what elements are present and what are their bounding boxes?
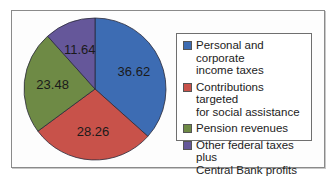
data-label: 28.26 — [77, 124, 110, 139]
data-label: 23.48 — [36, 77, 69, 92]
legend-label: Personal and corporate income taxes — [196, 39, 307, 77]
legend-item-income-taxes: Personal and corporate income taxes — [183, 39, 307, 77]
data-label: 11.64 — [64, 42, 96, 57]
legend-item-pension-revenues: Pension revenues — [183, 122, 307, 135]
legend-item-social-contributions: Contributions targeted for social assist… — [183, 81, 307, 119]
legend-label: Pension revenues — [196, 122, 288, 135]
legend-swatch-purple — [183, 141, 192, 150]
legend-label: Contributions targeted for social assist… — [196, 81, 307, 119]
data-label: 36.62 — [118, 64, 151, 79]
legend: Personal and corporate income taxes Cont… — [176, 33, 312, 141]
legend-swatch-green — [183, 124, 192, 133]
legend-label: Other federal taxes plus Central Bank pr… — [196, 139, 307, 177]
legend-swatch-blue — [183, 41, 192, 50]
legend-item-other-federal-taxes: Other federal taxes plus Central Bank pr… — [183, 139, 307, 177]
legend-swatch-red — [183, 83, 192, 92]
